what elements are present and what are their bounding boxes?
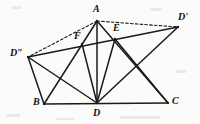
vertex-label-D-prime: D' bbox=[178, 12, 188, 22]
vertex-dot-B bbox=[43, 103, 45, 105]
vertex-label-D-double-prime: D″ bbox=[10, 48, 23, 58]
segment-A-B bbox=[44, 21, 97, 104]
vertex-label-D: D bbox=[93, 108, 100, 118]
vertex-label-A: A bbox=[93, 4, 100, 14]
scan-speck bbox=[6, 114, 20, 117]
segment-A-Dpp bbox=[28, 21, 97, 57]
vertex-label-F: F bbox=[74, 31, 81, 41]
vertex-dot-Dpp bbox=[27, 56, 29, 58]
scan-speck bbox=[150, 8, 162, 11]
scan-speck bbox=[176, 70, 186, 73]
vertex-dot-C bbox=[167, 102, 169, 104]
segment-Dpp-Dp bbox=[28, 27, 178, 57]
scan-speck bbox=[12, 6, 21, 9]
dashed-segments-group bbox=[28, 21, 178, 57]
vertex-label-E: E bbox=[113, 23, 120, 33]
segment-D-E bbox=[97, 39, 115, 103]
segment-E-C bbox=[115, 39, 168, 103]
segment-B-C bbox=[44, 103, 168, 104]
figure-canvas bbox=[0, 0, 200, 124]
vertex-dot-A bbox=[96, 20, 98, 22]
vertex-dots-group bbox=[27, 20, 179, 105]
vertex-label-C: C bbox=[172, 96, 179, 106]
segment-A-Dp bbox=[97, 21, 178, 27]
vertex-dot-E bbox=[114, 38, 116, 40]
scan-speck bbox=[120, 116, 160, 119]
vertex-dot-F bbox=[81, 43, 83, 45]
solid-segments-group bbox=[28, 21, 178, 104]
scan-speck bbox=[56, 118, 74, 120]
vertex-label-B: B bbox=[33, 97, 40, 107]
vertex-dot-Dp bbox=[177, 26, 179, 28]
vertex-dot-D bbox=[96, 102, 98, 104]
geometry-figure: A B C D E F D' D″ bbox=[0, 0, 200, 124]
